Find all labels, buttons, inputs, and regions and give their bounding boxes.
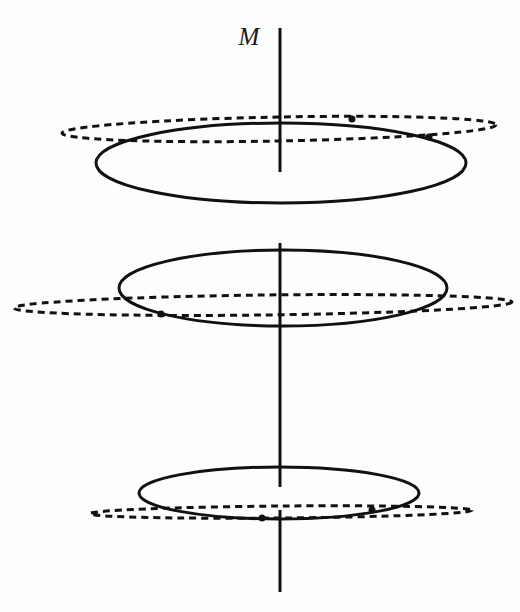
middle-node-left (158, 311, 165, 318)
figure-root: M (0, 0, 520, 612)
upper-node-right (426, 134, 433, 141)
lower-node-right (369, 507, 376, 514)
lower-node-center (259, 515, 266, 522)
upper-node-left (349, 116, 356, 123)
middle-dashed-orbit (14, 292, 512, 318)
axis-label-m: M (238, 23, 261, 50)
orbital-planes-diagram: M (0, 0, 520, 612)
middle-orbit-pair (14, 250, 512, 326)
